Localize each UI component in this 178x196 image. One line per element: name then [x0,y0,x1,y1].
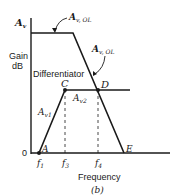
freq-tick-f3: f3 [61,158,69,169]
y-axis-symbol: Av [14,17,27,29]
point-e-label: E [125,144,133,154]
x-axis-label: Frequency [78,172,121,182]
gain-label-av2: Av2 [72,93,87,104]
figure-caption: (b) [91,185,104,195]
point-d-dot [96,88,100,92]
open-loop-label-top: Av, OL [68,12,91,23]
point-c-label: C [61,78,69,89]
open-loop-top-leader-arrow [55,18,67,31]
open-loop-right-leader-arrow [95,56,105,74]
differentiator-label: Differentiator [33,69,84,79]
freq-tick-f1: f1 [36,158,44,169]
y-axis-label-gain: Gain [9,51,28,61]
freq-tick-f4: f4 [94,158,102,169]
open-loop-label-right: Av, OL [91,44,114,55]
bode-plot-diagram: Av Gain dB Av, OL Av, OL Differentiator … [0,0,178,196]
point-a-dot [37,151,41,155]
origin-label: 0 [22,148,27,158]
point-d-label: D [100,79,109,90]
y-axis-label-db: dB [12,61,23,71]
point-a-label: A [41,144,49,154]
gain-label-av1: Av1 [37,107,52,118]
